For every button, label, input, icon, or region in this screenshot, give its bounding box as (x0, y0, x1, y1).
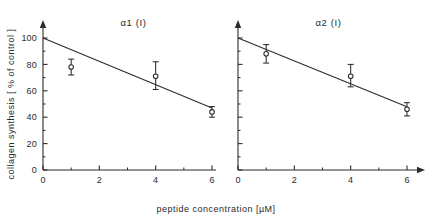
panel-title-text: α2 (I) (316, 17, 342, 28)
data-point-group (263, 45, 269, 63)
regression-line (238, 38, 407, 107)
y-axis-title-text: collagen synthesis [ % of control ] (6, 28, 16, 179)
data-point-marker (153, 74, 158, 79)
y-tick-label: 40 (27, 112, 37, 122)
x-tick-label: 2 (97, 175, 102, 185)
x-tick-label: 0 (40, 175, 45, 185)
y-axis-arrow-icon (40, 20, 46, 28)
data-point-marker (69, 65, 74, 70)
panel-alpha2: 0246α2 (I) (235, 17, 425, 185)
x-tick-label: 6 (404, 175, 409, 185)
y-axis-title: collagen synthesis [ % of control ] (6, 28, 16, 179)
x-axis-title: peptide concentration [µM] (156, 204, 275, 214)
data-point-marker (405, 107, 410, 112)
regression-line (43, 38, 212, 108)
data-point-marker (264, 52, 269, 57)
x-axis-arrow-icon (417, 167, 425, 173)
panel-alpha1: 0204060801000246α1 (I) (21, 17, 216, 185)
x-tick-label: 2 (292, 175, 297, 185)
x-tick-label: 6 (209, 175, 214, 185)
y-tick-label: 20 (27, 139, 37, 149)
data-point-marker (210, 110, 215, 115)
x-tick-label: 0 (235, 175, 240, 185)
y-tick-label: 0 (32, 165, 37, 175)
y-tick-label: 100 (21, 33, 37, 43)
figure-container: collagen synthesis [ % of control ] pept… (0, 0, 432, 224)
y-axis-arrow-icon (235, 20, 241, 28)
panel-title-text: α1 (I) (121, 17, 147, 28)
data-point-group (404, 103, 410, 116)
data-point-group (68, 59, 74, 75)
collagen-synthesis-figure: collagen synthesis [ % of control ] pept… (0, 0, 432, 224)
data-point-marker (348, 74, 353, 79)
data-point-group (209, 107, 215, 118)
x-axis-title-text: peptide concentration [µM] (156, 204, 275, 214)
y-tick-label: 80 (27, 60, 37, 70)
x-tick-label: 4 (153, 175, 158, 185)
y-tick-label: 60 (27, 86, 37, 96)
x-tick-label: 4 (348, 175, 353, 185)
data-point-group (348, 64, 354, 86)
